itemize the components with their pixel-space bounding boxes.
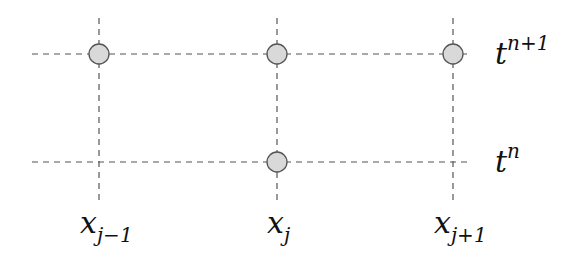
node-j-minus-1-n-plus-1 (89, 44, 109, 64)
stencil-canvas: tn+1 tn xj−1 xj xj+1 (0, 0, 574, 260)
node-j-n (267, 152, 287, 172)
node-j-n-plus-1 (267, 44, 287, 64)
label-x-j-plus-1: xj+1 (434, 205, 487, 247)
label-t-n-plus-1: tn+1 (495, 31, 549, 71)
node-j-plus-1-n-plus-1 (443, 44, 463, 64)
label-t-n: tn (495, 139, 520, 179)
label-x-j-minus-1: xj−1 (80, 205, 133, 247)
stencil-diagram: tn+1 tn xj−1 xj xj+1 (0, 0, 574, 260)
label-x-j: xj (267, 205, 290, 247)
